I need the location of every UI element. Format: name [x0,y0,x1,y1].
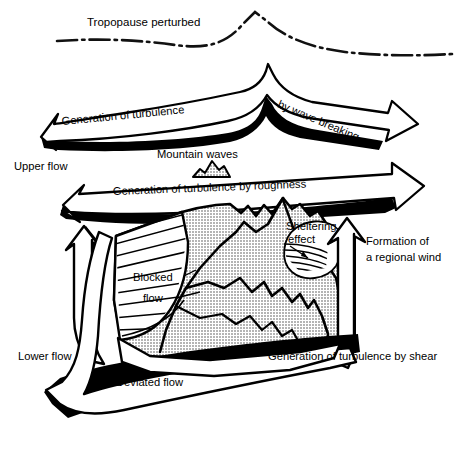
tropopause-group: Tropopause perturbed [57,12,452,55]
blocked-flow-label-1: Blocked [133,271,173,283]
formation-label-2: a regional wind [366,251,441,263]
lower-flow-label: Lower flow [18,350,72,362]
blocked-flow-label-2: flow [143,292,164,304]
upper-flow-arrow-group: Generation of turbulence by wave breakin… [41,64,418,151]
mountain-airflow-diagram: Tropopause perturbed Generation of turbu… [0,0,462,456]
sheltering-effect-label-2: effect [288,233,316,245]
mountain-waves-group: Mountain waves [157,148,238,177]
sheltering-effect-label-1: Sheltering [286,220,336,232]
upper-flow-label: Upper flow [14,160,68,172]
turbulence-by-shear-label: Generation of turbulence by shear [268,350,437,362]
mountain-waves-icon [193,161,230,177]
diagram-canvas: Tropopause perturbed Generation of turbu… [0,0,462,456]
formation-label-1: Formation of [366,235,430,247]
deviated-flow-label: Deviated flow [116,376,184,388]
mountain-waves-label: Mountain waves [157,148,238,160]
tropopause-label: Tropopause perturbed [87,16,200,28]
sheltering-effect-group: Sheltering effect [284,220,342,278]
